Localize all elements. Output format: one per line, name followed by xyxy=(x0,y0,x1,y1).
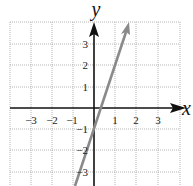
x-tick-label: −3 xyxy=(25,114,37,126)
grid xyxy=(10,22,180,186)
y-tick-label: −1 xyxy=(76,123,88,135)
y-tick-label: 3 xyxy=(83,38,89,50)
x-axis-label: x xyxy=(181,97,191,119)
axes xyxy=(10,22,186,186)
y-axis-label: y xyxy=(90,0,101,21)
x-tick-label: 3 xyxy=(155,114,161,126)
y-tick-label: −3 xyxy=(76,166,88,178)
y-tick-label: −2 xyxy=(76,144,88,156)
x-tick-labels: −3 −2 −1 1 2 3 xyxy=(25,114,161,126)
x-tick-label: −2 xyxy=(46,114,58,126)
graph: −3 −2 −1 1 2 3 3 2 1 −1 −2 −3 y x xyxy=(0,0,193,186)
y-tick-label: 2 xyxy=(83,59,89,71)
x-tick-label: 1 xyxy=(112,114,118,126)
y-tick-label: 1 xyxy=(83,81,89,93)
x-tick-label: 2 xyxy=(133,114,139,126)
